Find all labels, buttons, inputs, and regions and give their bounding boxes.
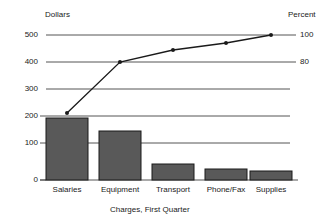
x-category-label-phone-fax: Phone/Fax [201,186,251,194]
x-category-label-transport: Transport [149,186,197,194]
bars [46,118,292,180]
bar-salaries [46,118,88,180]
x-axis-title: Charges, First Quarter [110,206,190,214]
bar-phone-fax [205,169,247,180]
x-category-label-equipment: Equipment [95,186,145,194]
x-category-label-salaries: Salaries [44,186,90,194]
bar-equipment [99,131,141,180]
right-axis-ticks [290,35,296,62]
line-marker-salaries [65,111,69,115]
cumulative-line [65,33,273,115]
line-marker-supplies [269,33,273,37]
line-marker-equipment [118,60,122,64]
x-category-label-supplies: Supplies [249,186,293,194]
bar-transport [152,164,194,180]
left-axis-ticks [40,116,46,180]
pareto-chart: Dollars Percent 500 400 300 200 100 0 10… [0,0,333,224]
line-marker-phone-fax [224,41,228,45]
line-marker-transport [171,48,175,52]
bar-supplies [250,171,292,180]
